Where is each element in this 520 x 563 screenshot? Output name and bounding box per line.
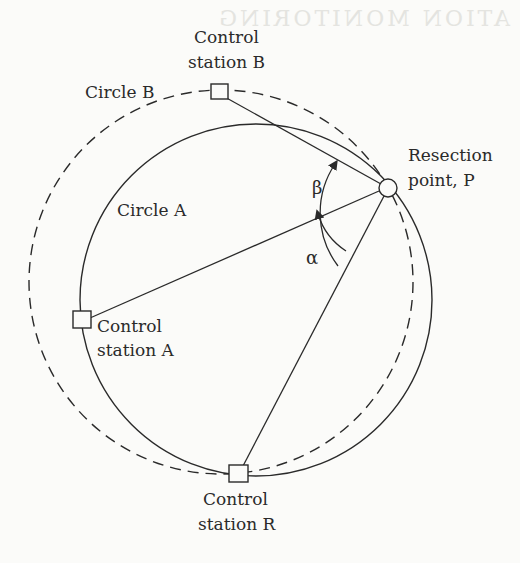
sight-line-p-to-b: [223, 96, 381, 184]
station-a-label-line2: station A: [97, 340, 175, 360]
circle-a-label: Circle A: [117, 200, 187, 220]
station-r-marker: [229, 465, 248, 482]
beta-angle-label: β: [312, 177, 322, 198]
resection-point-label-line1: Resection: [408, 145, 493, 165]
station-a-marker: [73, 311, 91, 328]
circle-b-outline: [29, 90, 413, 474]
resection-point-label-line2: point, P: [408, 170, 475, 190]
circle-b-label: Circle B: [85, 82, 155, 102]
station-r-label-line1: Control: [203, 489, 268, 509]
alpha-angle-label: α: [306, 247, 318, 268]
station-a-label-line1: Control: [97, 316, 162, 336]
resection-point-marker: [379, 179, 397, 197]
ghost-header: ATION MONITORING: [216, 6, 511, 31]
bleed-through-text: ATION MONITORING: [216, 6, 511, 31]
sight-line-p-to-r: [243, 196, 384, 466]
circle-a-outline: [80, 124, 432, 476]
station-r-label-line2: station R: [198, 514, 277, 534]
station-b-label-line2: station B: [188, 52, 265, 72]
station-b-label-line1: Control: [194, 27, 259, 47]
station-b-marker: [211, 84, 228, 99]
resection-diagram: ATION MONITORING Control station B Circl…: [0, 0, 520, 563]
